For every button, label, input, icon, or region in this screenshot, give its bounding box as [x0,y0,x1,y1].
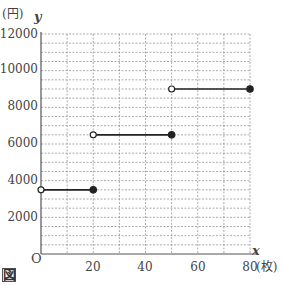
y-tick-8000: 8000 [7,100,38,112]
x-axis-label: x [252,244,260,257]
open-endpoint-marker [90,132,96,138]
closed-endpoint-marker [90,187,96,193]
x-tick-40: 40 [137,261,152,273]
origin-label: O [31,252,42,265]
y-tick-12000: 12000 [0,28,38,40]
y-tick-10000: 10000 [0,63,38,75]
y-tick-6000: 6000 [7,137,38,149]
closed-endpoint-marker [168,132,174,138]
y-tick-4000: 4000 [7,174,38,186]
x-unit-label: (枚) [256,261,277,273]
open-endpoint-marker [38,187,44,193]
step-chart [0,0,283,285]
x-tick-20: 20 [85,261,100,273]
y-tick-2000: 2000 [7,211,38,223]
open-endpoint-marker [169,86,175,92]
y-unit-label: (円) [2,8,23,20]
figure-label: 図 [2,268,16,282]
x-tick-60: 60 [190,261,205,273]
closed-endpoint-marker [247,86,253,92]
y-axis-label: y [34,10,42,23]
